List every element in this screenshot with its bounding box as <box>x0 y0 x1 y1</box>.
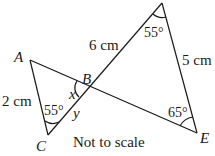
line-AE <box>30 60 197 133</box>
length-AC: 2 cm <box>2 93 32 109</box>
angle-label-y: y <box>71 105 80 121</box>
length-BD: 6 cm <box>89 37 119 53</box>
vertex-label-B: B <box>82 71 91 87</box>
angle-label-E: 65° <box>168 105 188 120</box>
not-to-scale-note: Not to scale <box>73 134 145 150</box>
length-DE: 5 cm <box>182 52 212 68</box>
vertex-label-A: A <box>13 49 24 65</box>
angle-label-x: x <box>68 86 76 102</box>
vertex-label-E: E <box>199 130 209 146</box>
angle-arc-C <box>45 121 59 123</box>
angle-label-C: 55° <box>44 103 64 118</box>
side-AC <box>30 60 48 135</box>
vertex-label-C: C <box>36 138 47 154</box>
line-CD <box>48 3 162 135</box>
angle-arc-D <box>153 14 166 18</box>
angle-label-D: 55° <box>144 25 164 40</box>
geometry-diagram: A B C E 2 cm 6 cm 5 cm 55° 55° 65° x y N… <box>0 0 215 156</box>
